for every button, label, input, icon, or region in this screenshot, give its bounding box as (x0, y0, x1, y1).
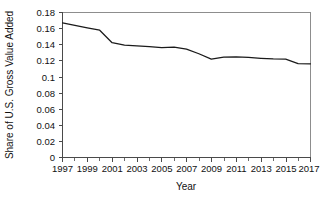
y-tick-label-0.18: 0.18 (37, 7, 56, 18)
y-tick-label-0.12: 0.12 (37, 55, 56, 66)
x-tick-label-1999: 1999 (77, 163, 98, 174)
y-tick-label-0.16: 0.16 (37, 23, 56, 34)
x-tick-label-2011: 2011 (226, 163, 246, 174)
y-tick-label-0.02: 0.02 (37, 136, 56, 147)
y-tick-label-0: 0 (50, 152, 55, 163)
y-axis-title: Share of U.S. Gross Value Added (4, 11, 15, 159)
y-tick-label-0.08: 0.08 (37, 88, 56, 99)
y-tick-label-0.06: 0.06 (37, 104, 56, 115)
x-tick-label-2013: 2013 (251, 163, 272, 174)
y-tick-label-0.14: 0.14 (37, 39, 56, 50)
x-tick-label-1997: 1997 (52, 163, 73, 174)
x-tick-label-2009: 2009 (201, 163, 222, 174)
y-tick-label-0.04: 0.04 (37, 120, 56, 131)
x-tick-label-2001: 2001 (102, 163, 123, 174)
chart-figure: 0.18 0.16 0.14 0.12 0.1 0.08 0.06 0.04 0… (0, 0, 330, 197)
x-tick-label-2007: 2007 (176, 163, 197, 174)
x-tick-label-2003: 2003 (126, 163, 147, 174)
x-tick-label-2015: 2015 (276, 163, 297, 174)
x-tick-label-2005: 2005 (151, 163, 172, 174)
y-tick-label-0.1: 0.1 (42, 72, 55, 83)
line-chart: 0.18 0.16 0.14 0.12 0.1 0.08 0.06 0.04 0… (0, 0, 330, 197)
x-axis-tick-labels: 1997 1999 2001 2003 2005 2007 2009 2011 … (52, 163, 320, 174)
x-axis-title: Year (176, 181, 197, 192)
x-tick-label-2017: 2017 (298, 163, 319, 174)
